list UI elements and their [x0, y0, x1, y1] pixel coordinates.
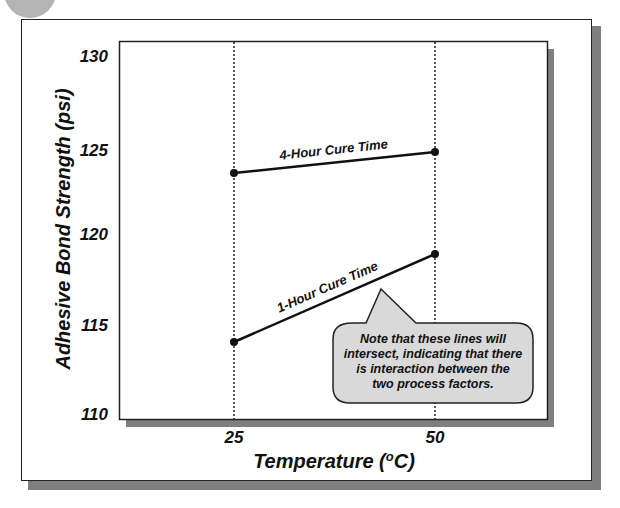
y-tick: 125: [80, 141, 109, 160]
data-point: [431, 250, 439, 258]
x-tick: 50: [426, 428, 445, 447]
data-point: [230, 169, 238, 177]
x-axis-ticks: 25 50: [224, 428, 445, 447]
x-axis-title: Temperature (oC): [253, 449, 415, 472]
callout-line: is interaction between the: [356, 362, 510, 376]
y-tick: 110: [81, 405, 109, 424]
callout-line: two process factors.: [372, 377, 494, 391]
x-tick: 25: [224, 428, 244, 447]
callout-line: intersect, indicating that there: [344, 347, 523, 361]
callout-line: Note that these lines will: [360, 332, 506, 346]
y-axis-title: Adhesive Bond Strength (psi): [52, 88, 74, 370]
y-tick: 115: [81, 316, 109, 335]
chart: 130 125 120 115 110 25 50 Temperature (o…: [0, 0, 620, 508]
y-axis-ticks: 130 125 120 115 110: [80, 47, 109, 424]
data-point: [431, 148, 439, 156]
y-tick: 130: [80, 47, 109, 66]
y-tick: 120: [80, 225, 109, 244]
data-point: [230, 338, 238, 346]
